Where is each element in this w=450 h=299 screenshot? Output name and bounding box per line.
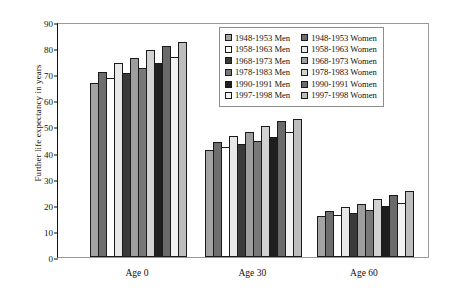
legend-item[interactable]: 1958-1963 Men [225, 44, 290, 56]
y-axis-tick-mark [54, 76, 58, 77]
bar [269, 137, 278, 257]
bar-chart: Further life expectancy in years 0102030… [0, 0, 450, 299]
bar [98, 72, 107, 257]
bar [138, 68, 147, 257]
y-axis-tick-label: 90 [27, 19, 53, 29]
y-axis-tick-mark [54, 232, 58, 233]
bar [90, 83, 99, 257]
bar [229, 136, 238, 257]
legend-label: 1978-1983 Women [311, 68, 377, 77]
legend-item[interactable]: 1997-1998 Men [225, 90, 290, 102]
legend-swatch-icon [225, 57, 232, 64]
legend-label: 1958-1963 Men [235, 45, 290, 54]
legend-swatch-icon [301, 57, 308, 64]
legend-item[interactable]: 1958-1963 Women [301, 44, 377, 56]
y-axis-tick-label: 40 [27, 150, 53, 160]
legend-item[interactable]: 1978-1983 Men [225, 67, 290, 79]
legend-label: 1997-1998 Men [235, 91, 290, 100]
bar-cluster-age-0 [89, 24, 186, 257]
bar [221, 147, 230, 257]
bar [317, 216, 326, 257]
bar [106, 78, 115, 257]
bar [253, 141, 262, 257]
y-axis-tick-mark [54, 259, 58, 260]
y-axis-tick-mark [54, 180, 58, 181]
bar [162, 46, 171, 258]
y-axis-tick-label: 50 [27, 123, 53, 133]
legend-item[interactable]: 1948-1953 Women [301, 32, 377, 44]
legend-label: 1997-1998 Women [311, 91, 377, 100]
legend-item[interactable]: 1968-1973 Men [225, 55, 290, 67]
legend-swatch-icon [225, 34, 232, 41]
y-axis-tick-label: 60 [27, 97, 53, 107]
legend-label: 1990-1991 Women [311, 80, 377, 89]
bar [341, 207, 350, 257]
bar [365, 210, 374, 257]
bar [325, 211, 334, 257]
x-axis-label: Age 60 [350, 268, 378, 278]
bar [277, 121, 286, 257]
legend-item[interactable]: 1978-1983 Women [301, 67, 377, 79]
legend-item[interactable]: 1997-1998 Women [301, 90, 377, 102]
legend-swatch-icon [301, 46, 308, 53]
legend-swatch-icon [225, 92, 232, 99]
legend-swatch-icon [225, 69, 232, 76]
bar [373, 199, 382, 257]
bar [213, 142, 222, 257]
legend-label: 1978-1983 Men [235, 68, 290, 77]
chart-legend: 1948-1953 Men1948-1953 Women1958-1963 Me… [219, 27, 384, 107]
bar [397, 203, 406, 257]
legend-label: 1948-1953 Men [235, 34, 290, 43]
y-axis-tick-mark [54, 102, 58, 103]
x-axis-label: Age 30 [238, 268, 266, 278]
y-axis-tick-mark [54, 50, 58, 51]
bar [114, 63, 123, 257]
bar [170, 57, 179, 257]
y-axis-tick-mark [54, 24, 58, 25]
bar [130, 58, 139, 257]
legend-swatch-icon [225, 46, 232, 53]
legend-label: 1968-1973 Men [235, 57, 290, 66]
legend-swatch-icon [301, 69, 308, 76]
legend-item[interactable]: 1990-1991 Men [225, 78, 290, 90]
bar [245, 132, 254, 257]
y-axis-tick-label: 20 [27, 202, 53, 212]
bar [285, 132, 294, 257]
legend-item[interactable]: 1968-1973 Women [301, 55, 377, 67]
legend-label: 1948-1953 Women [311, 34, 377, 43]
y-axis-tick-label: 30 [27, 176, 53, 186]
legend-label: 1990-1991 Men [235, 80, 290, 89]
bar [381, 206, 390, 257]
y-axis-tick-label: 0 [27, 254, 53, 264]
legend-swatch-icon [225, 81, 232, 88]
legend-item[interactable]: 1990-1991 Women [301, 78, 377, 90]
legend-label: 1968-1973 Women [311, 57, 377, 66]
legend-swatch-icon [301, 92, 308, 99]
y-axis-tick-mark [54, 128, 58, 129]
bar [389, 195, 398, 257]
legend-swatch-icon [301, 81, 308, 88]
bar [205, 150, 214, 257]
bar [178, 42, 187, 257]
bar [122, 73, 131, 257]
bar [333, 215, 342, 257]
y-axis-tick-mark [54, 154, 58, 155]
bar [357, 204, 366, 257]
y-axis-tick-mark [54, 206, 58, 207]
legend-item[interactable]: 1948-1953 Men [225, 32, 290, 44]
bar [154, 63, 163, 257]
bar [261, 126, 270, 257]
bar [293, 119, 302, 257]
bar [146, 50, 155, 257]
bar [405, 191, 414, 257]
legend-label: 1958-1963 Women [311, 45, 377, 54]
y-axis-tick-label: 10 [27, 228, 53, 238]
bar [237, 144, 246, 257]
legend-swatch-icon [301, 34, 308, 41]
bar [349, 213, 358, 257]
y-axis-tick-label: 80 [27, 45, 53, 55]
y-axis-tick-label: 70 [27, 71, 53, 81]
x-axis-label: Age 0 [125, 268, 148, 278]
